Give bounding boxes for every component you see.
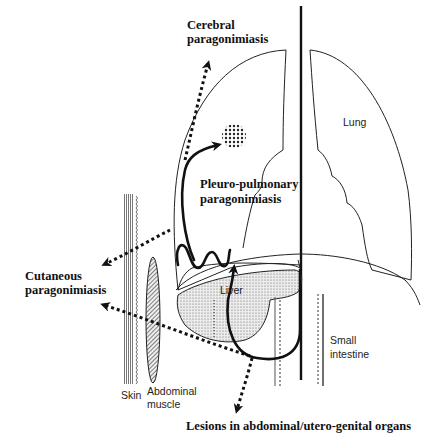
skin-wavy-edge [136,196,138,384]
abdominal-migration-path [237,358,252,410]
abdominal-muscle [146,257,160,383]
label-pleuro-line2: paragonimiasis [200,192,281,206]
cerebral-migration-path [185,64,208,160]
label-liver: Liver [220,284,243,296]
right-lung [310,50,412,280]
label-skin: Skin [121,389,142,401]
brain-lesion-cyst [222,124,246,148]
label-lesions: Lesions in abdominal/utero-genital organ… [186,419,411,433]
label-cutaneous-line1: Cutaneous [25,269,82,283]
label-cutaneous-line2: paragonimiasis [25,283,106,297]
label-abdominal-muscle-line1: Abdominal [147,385,197,397]
label-cerebral-line1: Cerebral [187,18,235,32]
label-abdominal-muscle-line2: muscle [147,398,180,410]
label-cerebral-line2: paragonimiasis [187,32,268,46]
label-pleuro-line1: Pleuro-pulmonary [200,177,299,191]
liver [177,270,301,342]
label-small-intestine-line1: Small [330,334,356,346]
paragonimiasis-migration-diagram: Cerebral paragonimiasis Lung Pleuro-pulm… [0,0,446,437]
skin [124,194,133,384]
label-lung: Lung [343,116,367,128]
label-small-intestine-line2: intestine [330,348,369,360]
wavy-migration-path [177,245,230,268]
left-lung [174,50,300,290]
